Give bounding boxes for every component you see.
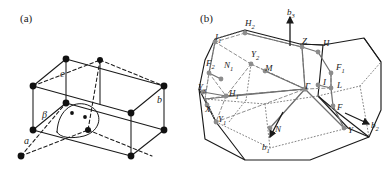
lattice-point: [161, 127, 168, 134]
lattice-point-centering: [85, 127, 91, 133]
beta-angle-arc: [57, 104, 99, 138]
lattice-point: [18, 153, 25, 160]
lattice-point: [30, 127, 37, 134]
panel-a-unit-cell: (a): [0, 0, 194, 174]
lattice-point: [128, 110, 135, 117]
axis-label-a: a: [24, 135, 29, 146]
cell-edge-hidden-4: [88, 130, 152, 156]
cell-edge-hidden-2: [100, 60, 164, 86]
lattice-point-centering: [97, 57, 103, 63]
lattice-point-small: [83, 115, 87, 119]
cell-edge-bot-4: [66, 103, 164, 130]
cell-edge-hidden-5: [88, 60, 100, 130]
cell-edge-top-4: [33, 86, 131, 113]
lattice-point: [128, 153, 135, 160]
unit-cell-drawing: a b c β: [0, 0, 194, 174]
lattice-point-small: [70, 111, 74, 115]
panel-b-caption: (b): [200, 12, 213, 24]
figure-container: (a): [0, 0, 388, 174]
cell-edge-bot-2: [131, 130, 164, 156]
lattice-point: [161, 83, 168, 90]
cell-edge-hidden-3: [21, 130, 88, 156]
panel-b-brillouin-zone: (b): [194, 0, 388, 174]
axis-label-c: c: [60, 68, 65, 79]
cell-edge-top-2: [66, 59, 164, 86]
axis-label-b: b: [157, 94, 162, 105]
lattice-point: [63, 100, 70, 107]
angle-label-beta: β: [41, 109, 47, 120]
lattice-point: [63, 56, 70, 63]
lattice-point: [30, 83, 37, 90]
cell-edge-bot-1: [33, 130, 131, 156]
